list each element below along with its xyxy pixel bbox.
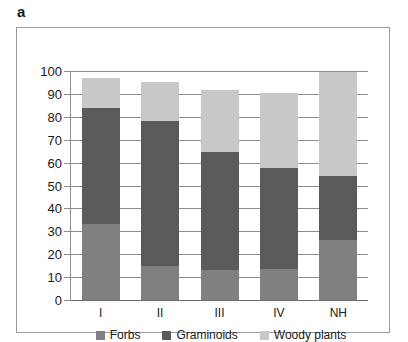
legend-swatch-graminoids — [162, 331, 171, 340]
x-axis-label-IV: IV — [260, 306, 298, 320]
y-tick-0 — [64, 300, 70, 301]
legend-item-woody-plants[interactable]: Woody plants — [260, 329, 347, 342]
legend-item-graminoids[interactable]: Graminoids — [162, 329, 237, 342]
bar-segment-II-woody-plants[interactable] — [141, 82, 179, 121]
legend-label-graminoids: Graminoids — [176, 329, 237, 342]
bar-segment-III-graminoids[interactable] — [201, 152, 239, 270]
bar-segment-IV-woody-plants[interactable] — [260, 93, 298, 169]
bar-group-IV[interactable] — [260, 71, 298, 300]
bar-segment-I-forbs[interactable] — [82, 224, 120, 300]
figure-panel: a 0102030405060708090100IIIIIIIVNH Forbs… — [0, 0, 408, 342]
y-tick-label-20: 20 — [48, 248, 62, 261]
bar-group-III[interactable] — [201, 71, 239, 300]
legend-swatch-forbs — [96, 331, 105, 340]
y-tick-80 — [64, 117, 70, 118]
x-axis-label-I: I — [82, 306, 120, 320]
y-tick-10 — [64, 277, 70, 278]
y-tick-label-100: 100 — [40, 65, 62, 78]
y-tick-label-40: 40 — [48, 202, 62, 215]
legend-item-forbs[interactable]: Forbs — [96, 329, 141, 342]
chart-frame: 0102030405060708090100IIIIIIIVNH ForbsGr… — [16, 27, 390, 333]
panel-letter: a — [17, 4, 25, 20]
bar-segment-II-graminoids[interactable] — [141, 121, 179, 265]
x-axis-label-II: II — [141, 306, 179, 320]
y-tick-100 — [64, 71, 70, 72]
bar-segment-I-graminoids[interactable] — [82, 108, 120, 225]
bar-segment-II-forbs[interactable] — [141, 266, 179, 300]
bar-segment-IV-graminoids[interactable] — [260, 168, 298, 269]
chart-legend: ForbsGraminoidsWoody plants — [71, 329, 371, 342]
plot-area: 0102030405060708090100IIIIIIIVNH — [71, 71, 368, 300]
y-tick-label-10: 10 — [48, 271, 62, 284]
y-tick-label-0: 0 — [55, 294, 62, 307]
bar-segment-IV-forbs[interactable] — [260, 269, 298, 300]
bar-segment-NH-forbs[interactable] — [319, 240, 357, 300]
x-axis-label-III: III — [201, 306, 239, 320]
legend-label-woody-plants: Woody plants — [274, 329, 347, 342]
x-axis-label-NH: NH — [319, 306, 357, 320]
bar-group-II[interactable] — [141, 71, 179, 300]
y-tick-20 — [64, 254, 70, 255]
y-tick-label-80: 80 — [48, 110, 62, 123]
legend-swatch-woody-plants — [260, 331, 269, 340]
y-tick-label-60: 60 — [48, 156, 62, 169]
y-tick-50 — [64, 186, 70, 187]
y-tick-30 — [64, 231, 70, 232]
bar-segment-NH-woody-plants[interactable] — [319, 72, 357, 176]
y-tick-label-50: 50 — [48, 179, 62, 192]
y-tick-label-90: 90 — [48, 87, 62, 100]
y-tick-70 — [64, 140, 70, 141]
y-tick-90 — [64, 94, 70, 95]
bar-segment-III-woody-plants[interactable] — [201, 90, 239, 152]
bar-segment-NH-graminoids[interactable] — [319, 176, 357, 240]
bar-group-I[interactable] — [82, 71, 120, 300]
y-tick-label-30: 30 — [48, 225, 62, 238]
y-tick-60 — [64, 163, 70, 164]
y-tick-label-70: 70 — [48, 133, 62, 146]
bar-segment-I-woody-plants[interactable] — [82, 78, 120, 108]
legend-label-forbs: Forbs — [110, 329, 141, 342]
y-tick-40 — [64, 208, 70, 209]
bar-segment-III-forbs[interactable] — [201, 270, 239, 300]
bar-group-NH[interactable] — [319, 71, 357, 300]
gridline-0: 0 — [71, 300, 368, 301]
